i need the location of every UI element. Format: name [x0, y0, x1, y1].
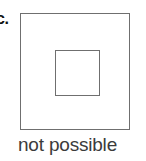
- outer-square: [20, 13, 130, 130]
- inner-square: [55, 50, 100, 96]
- figure-caption: not possible: [18, 134, 146, 155]
- figure-panel: c. not possible: [0, 0, 146, 161]
- option-label: c.: [0, 11, 8, 27]
